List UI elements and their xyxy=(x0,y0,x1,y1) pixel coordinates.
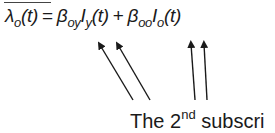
caption-superscript: nd xyxy=(181,107,195,122)
arrow-icon xyxy=(118,45,150,100)
caption-prefix: The 2 xyxy=(130,110,181,132)
arrow-icon xyxy=(191,44,195,100)
arrow-icon xyxy=(204,44,207,100)
caption-suffix: subscri xyxy=(196,110,265,132)
arrow-icon xyxy=(100,45,133,100)
caption-text: The 2nd subscri xyxy=(130,107,265,133)
